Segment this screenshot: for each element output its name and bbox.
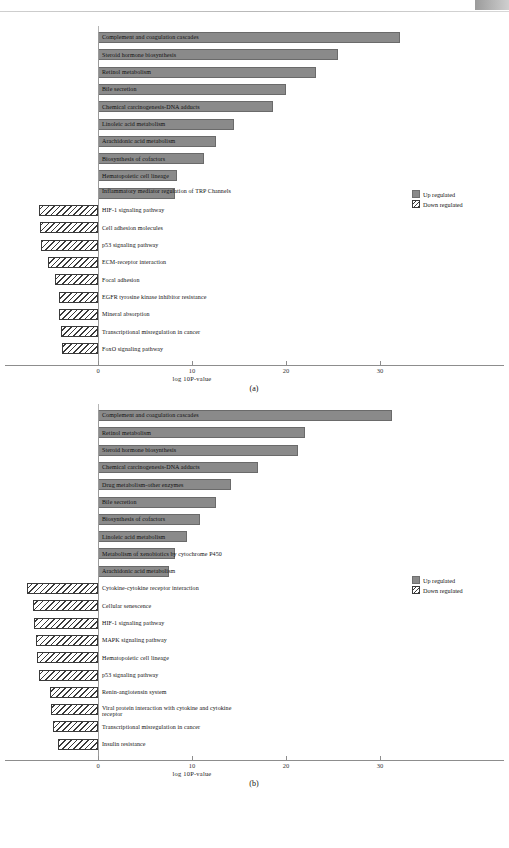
bar-label: Hematopoietic cell lineage	[102, 655, 169, 662]
bar-label: Chemical carcinogenesis-DNA adducts	[102, 464, 200, 471]
bar-label: p53 signaling pathway	[102, 672, 158, 679]
legend-label: Down regulated	[423, 201, 463, 208]
bar-label: FoxO signaling pathway	[102, 346, 163, 353]
chart-legend: Up regulatedDown regulated	[412, 190, 463, 210]
bar-label: Steroid hormone biosynthesis	[102, 52, 176, 59]
zero-axis-rule	[98, 410, 99, 760]
panel-caption: (a)	[250, 384, 259, 393]
x-axis-tick	[192, 361, 193, 365]
bar-label: Arachidonic acid metabolism	[102, 568, 175, 575]
bar-down	[48, 257, 98, 268]
bar-label: Chemical carcinogenesis-DNA adducts	[102, 104, 200, 111]
legend-swatch-down-icon	[412, 200, 420, 208]
bar-down	[33, 600, 98, 611]
figure-b: Complement and coagulation cascadesRetin…	[0, 398, 509, 838]
x-axis-tick	[286, 756, 287, 760]
bar-down	[59, 292, 98, 303]
bar-down	[39, 205, 98, 216]
bar-label: Insulin resistance	[102, 741, 146, 748]
bar-label: Metabolism of xenobiotics by cytochrome …	[102, 551, 222, 558]
bar-label: Mineral absorption	[102, 311, 150, 318]
bar-label: Retinol metabolism	[102, 69, 151, 76]
figure-a: Complement and coagulation cascadesStero…	[0, 18, 509, 406]
bar-label: Complement and coagulation cascades	[102, 412, 199, 419]
bar-label: Transcriptional misregulation in cancer	[102, 724, 200, 731]
x-axis-tick	[192, 756, 193, 760]
x-axis-tick-label: 30	[377, 367, 384, 374]
page-top-rule	[0, 11, 509, 12]
bar-down	[37, 652, 98, 663]
bar-label: Focal adhesion	[102, 277, 140, 284]
bar-label: Biosynthesis of cofactors	[102, 156, 165, 163]
legend-item: Down regulated	[412, 200, 463, 208]
legend-label: Up regulated	[423, 191, 455, 198]
legend-swatch-down-icon	[412, 586, 420, 594]
x-axis-tick-label: 10	[189, 762, 196, 769]
x-axis-tick-label: 20	[283, 762, 290, 769]
bar-label: Inflammatory mediator regulation of TRP …	[102, 188, 252, 195]
bar-label: ECM-receptor interaction	[102, 259, 166, 266]
bar-label: Drug metabolism-other enzymes	[102, 482, 184, 489]
bar-label: Bile secretion	[102, 499, 137, 506]
bar-label: Bile secretion	[102, 86, 137, 93]
page-corner-mark	[475, 0, 509, 10]
bar-down	[36, 635, 98, 646]
x-axis-tick-label: 30	[377, 762, 384, 769]
bar-label: Retinol metabolism	[102, 430, 151, 437]
legend-item: Up regulated	[412, 576, 463, 584]
chart-b-plot-area: Complement and coagulation cascadesRetin…	[0, 398, 509, 798]
bar-label: Renin-angiotensin system	[102, 689, 167, 696]
bar-down	[61, 326, 98, 337]
bar-label: Hematopoietic cell lineage	[102, 173, 169, 180]
bar-label: Viral protein interaction with cytokine …	[102, 705, 252, 718]
bar-label: Transcriptional misregulation in cancer	[102, 329, 200, 336]
x-axis-tick	[286, 361, 287, 365]
chart-legend: Up regulatedDown regulated	[412, 576, 463, 596]
legend-item: Down regulated	[412, 586, 463, 594]
bar-label: Cell adhesion molecules	[102, 225, 163, 232]
bar-down	[55, 274, 98, 285]
bar-label: HIF-1 signaling pathway	[102, 207, 164, 214]
bar-down	[41, 240, 98, 251]
bar-down	[62, 343, 98, 354]
bar-label: Complement and coagulation cascades	[102, 34, 199, 41]
x-axis-line	[5, 760, 504, 761]
x-axis-tick	[98, 361, 99, 365]
bar-label: EGFR tyrosine kinase inhibitor resistanc…	[102, 294, 206, 301]
x-axis-tick	[380, 361, 381, 365]
x-axis-line	[5, 365, 504, 366]
legend-label: Up regulated	[423, 577, 455, 584]
x-axis-tick-label: 10	[189, 367, 196, 374]
bar-down	[51, 704, 98, 715]
x-axis-tick-label: 0	[96, 762, 99, 769]
bar-down	[34, 618, 98, 629]
bar-down	[59, 309, 98, 320]
legend-swatch-up-icon	[412, 576, 420, 584]
bar-down	[58, 739, 98, 750]
bar-label: p53 signaling pathway	[102, 242, 158, 249]
bar-label: Linoleic acid metabolism	[102, 534, 165, 541]
panel-caption: (b)	[249, 779, 258, 788]
legend-swatch-up-icon	[412, 190, 420, 198]
x-axis-tick	[380, 756, 381, 760]
x-axis-title: log 10P-value	[173, 770, 212, 777]
bar-label: MAPK signaling pathway	[102, 637, 167, 644]
bar-down	[50, 687, 98, 698]
bar-label: Cytokine-cytokine receptor interaction	[102, 585, 199, 592]
bar-label: HIF-1 signaling pathway	[102, 620, 164, 627]
bar-label: Arachidonic acid metabolism	[102, 138, 175, 145]
legend-label: Down regulated	[423, 587, 463, 594]
x-axis-tick-label: 20	[283, 367, 290, 374]
bar-down	[53, 721, 98, 732]
page-header-text	[120, 0, 380, 10]
bar-label: Linoleic acid metabolism	[102, 121, 165, 128]
bar-down	[27, 583, 98, 594]
legend-item: Up regulated	[412, 190, 463, 198]
zero-axis-rule	[98, 32, 99, 365]
chart-a-plot-area: Complement and coagulation cascadesStero…	[0, 18, 509, 378]
x-axis-tick	[98, 756, 99, 760]
bar-down	[39, 670, 98, 681]
bar-down	[40, 222, 98, 233]
bar-label: Steroid hormone biosynthesis	[102, 447, 176, 454]
bar-label: Biosynthesis of cofactors	[102, 516, 165, 523]
